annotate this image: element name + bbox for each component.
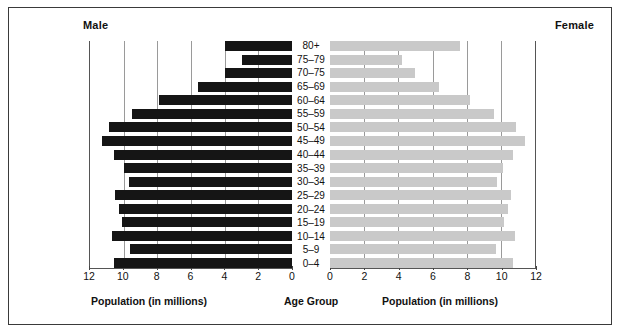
female-bar [330,55,402,65]
tick-label: 8 [154,270,160,282]
male-bar [242,55,293,65]
female-bar [330,217,504,227]
bar-row [330,204,535,214]
bar-row [330,41,535,51]
age-group-labels: 80+75–7970–7565–6960–6455–5950–5445–4940… [292,41,330,269]
female-bar-rows [330,41,535,268]
bar-row [330,109,535,119]
bar-row [90,55,292,65]
population-pyramid-figure: Male Female 80+75–7970–7565–6960–6455–59… [0,0,622,334]
female-bar [330,163,503,173]
male-bar [159,95,292,105]
bar-row [90,217,292,227]
bar-row [90,109,292,119]
tick-label: 6 [188,270,194,282]
bar-row [330,190,535,200]
female-bar [330,258,513,268]
age-group-label: 60–64 [292,96,330,106]
female-bar [330,95,470,105]
female-panel-title: Female [555,19,594,31]
bar-row [90,95,292,105]
male-axis-ticks: 121086420 [89,270,292,286]
bar-row [330,258,535,268]
male-bar [225,41,292,51]
age-group-label: 75–79 [292,55,330,65]
age-group-label: 25–29 [292,191,330,201]
bar-row [90,177,292,187]
male-panel-title: Male [83,19,108,31]
tick-label: 10 [117,270,129,282]
bar-row [330,136,535,146]
female-bar [330,82,439,92]
tick-label: 4 [396,270,402,282]
male-bar [114,150,292,160]
tick-label: 12 [83,270,95,282]
age-group-label: 40–44 [292,150,330,160]
male-bar [132,109,292,119]
male-bar [102,136,292,146]
bar-row [330,217,535,227]
female-bar [330,150,513,160]
bar-row [330,95,535,105]
bar-row [330,231,535,241]
bar-row [330,244,535,254]
bar-row [90,122,292,132]
age-group-label: 70–75 [292,68,330,78]
age-group-label: 35–39 [292,164,330,174]
bar-row [90,204,292,214]
tick-label: 0 [289,270,295,282]
female-bar [330,41,460,51]
age-group-label: 65–69 [292,82,330,92]
bar-row [330,163,535,173]
male-bar [109,122,292,132]
bar-row [90,68,292,78]
female-bar [330,122,516,132]
bar-row [90,150,292,160]
male-axis-caption: Population (in millions) [91,295,207,307]
male-bar [114,258,292,268]
female-bar [330,68,415,78]
female-bar [330,204,508,214]
male-bar [129,177,292,187]
bar-row [330,82,535,92]
age-group-label: 50–54 [292,123,330,133]
male-bar [122,217,292,227]
female-bar [330,190,511,200]
bar-row [90,244,292,254]
tick-label: 2 [361,270,367,282]
male-bar [198,82,292,92]
bar-row [90,136,292,146]
female-bar [330,177,497,187]
female-bar [330,136,525,146]
bar-row [90,231,292,241]
tick-label: 2 [255,270,261,282]
age-group-label: 5–9 [292,245,330,255]
bar-row [90,41,292,51]
bar-row [330,150,535,160]
female-bar [330,109,494,119]
tick-label: 10 [496,270,508,282]
female-axis-caption: Population (in millions) [382,295,498,307]
male-bar [115,190,292,200]
age-group-label: 30–34 [292,177,330,187]
age-group-label: 80+ [292,41,330,51]
bar-row [90,258,292,268]
age-group-label: 0–4 [292,259,330,269]
age-group-label: 55–59 [292,109,330,119]
bar-row [90,190,292,200]
bar-row [90,82,292,92]
male-bar [119,204,292,214]
age-group-label: 45–49 [292,136,330,146]
tick-label: 12 [530,270,542,282]
male-bar [124,163,292,173]
male-bar [130,244,292,254]
female-bar [330,244,496,254]
tick-label: 6 [430,270,436,282]
bar-row [330,177,535,187]
male-bar-rows [90,41,292,268]
bar-row [330,122,535,132]
tick-label: 8 [464,270,470,282]
male-bar [225,68,292,78]
female-chart-panel [330,41,536,269]
age-group-label: 20–24 [292,205,330,215]
